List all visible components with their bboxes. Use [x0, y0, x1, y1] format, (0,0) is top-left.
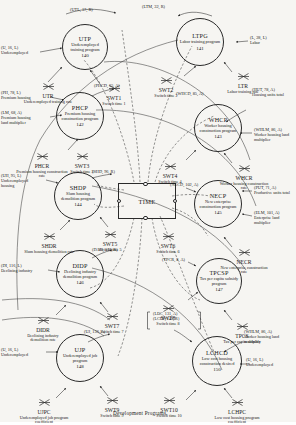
program-number: 148 — [76, 364, 84, 369]
program-node-didp[interactable]: DIDP Declining industry demolition progr… — [56, 250, 104, 298]
rate-node-lchpc[interactable]: LCHPC Low cost housing program coefficie… — [206, 392, 268, 425]
program-desc: Worker housing construction program — [197, 124, 239, 134]
program-desc: Labor training program — [180, 40, 220, 45]
valve-icon — [44, 233, 55, 240]
valve-icon — [232, 399, 243, 406]
program-number: 147 — [215, 287, 223, 292]
source-tag: (WHCD, 85, A) — [176, 91, 203, 96]
source-label-shd: (SHD, 96, R) — [92, 170, 115, 175]
rate-node-ujpc[interactable]: UJPC Underemployed job program coefficie… — [14, 392, 74, 425]
source-label-labor: (L, 28, L) Labor — [250, 36, 286, 46]
valve-icon — [107, 313, 118, 320]
rate-node-didr[interactable]: DIDR Declining industry demolition rate — [14, 310, 72, 343]
source-label-u-utp: (U, 16, L) Underemployed — [1, 46, 37, 56]
program-node-whcp[interactable]: WHCP Worker housing construction program… — [194, 104, 242, 152]
source-label-phcd: (PHCD, 65, A) — [94, 84, 120, 89]
program-node-shdp[interactable]: SHDP Slum housing demolition program 144 — [54, 172, 102, 220]
time-port-bottom — [143, 216, 148, 221]
program-code: UTP — [79, 36, 91, 42]
source-name: Worker housing land multiplier — [254, 133, 292, 142]
source-name: Enterprise land multiplier — [254, 216, 290, 225]
switch-node-swt6[interactable]: SWT6 Switch time 6 — [148, 226, 188, 254]
source-name: Premium housing land multiplier — [1, 116, 35, 125]
program-number: 146 — [76, 280, 84, 285]
program-desc: Premium housing construction program — [59, 112, 101, 122]
source-name: Worker housing land multiplier — [244, 335, 282, 344]
program-desc: Low cost housing construction desired — [195, 357, 239, 367]
program-code: PHCP — [72, 105, 88, 111]
time-port-top — [143, 182, 148, 187]
rate-desc: New enterprise construction rate — [218, 266, 270, 275]
source-label-necd: (NECD, 102, A) — [170, 183, 198, 188]
valve-icon — [107, 397, 118, 404]
source-label-utl: (UTL, 17, R) — [70, 8, 93, 13]
source-label-whlm-lchcd: (WHLM, 86, A) Worker housing land multip… — [244, 330, 282, 344]
program-desc: Underemployed training program — [65, 43, 105, 53]
program-desc: Tax per capita subsidy program — [199, 277, 239, 287]
source-name: Premium housing — [1, 96, 37, 101]
source-label-whlm: (WHLM, 86, A) Worker housing land multip… — [254, 128, 292, 142]
source-tag: (NECD, 102, A) — [170, 182, 198, 187]
program-code: UJP — [75, 347, 86, 353]
switch-node-swt4[interactable]: SWT4 Switch time 4 — [150, 156, 190, 184]
source-label-ltm: (LTM, 32, R) — [142, 5, 165, 10]
valve-icon — [164, 397, 175, 404]
rate-node-shdr[interactable]: SHDR Slum housing demolition rate — [20, 226, 78, 254]
rate-node-necr[interactable]: NECR New enterprise construction rate — [214, 242, 274, 275]
program-desc: Slum housing demolition program — [57, 192, 99, 202]
source-name: Underemployed — [246, 363, 282, 368]
source-name: Housing units total — [252, 93, 288, 98]
program-code: DIDP — [72, 263, 87, 269]
program-code: NECP — [210, 193, 227, 199]
program-desc: Declining industry demolition program — [59, 270, 101, 280]
source-label-u-lchcd: (U, 16, L) Underemployed — [246, 358, 282, 368]
valve-icon — [239, 165, 250, 172]
source-label-premium-housing: (PH, 78, L) Premium housing — [1, 91, 37, 101]
rate-desc: Underemployed job program coefficient — [18, 416, 70, 425]
program-node-ltpg[interactable]: LTPG Labor training program 141 — [176, 18, 224, 66]
source-name: Underemployed housing — [1, 179, 35, 188]
program-desc: Underemployed job program — [59, 354, 101, 364]
time-port-left — [117, 199, 122, 204]
valve-icon — [43, 83, 54, 90]
program-number: 141 — [196, 46, 204, 51]
source-label-uj: (UJ, 136, A) — [84, 330, 105, 335]
time-port-right — [173, 199, 178, 204]
source-label-whcd: (WHCD, 85, A) — [176, 92, 203, 97]
source-label-dad: (DAD, 117, R) — [92, 248, 118, 253]
program-desc: New enterprise construction program — [197, 200, 239, 210]
switch-desc: Switch time 1 — [94, 102, 134, 107]
source-label-uh: (UH, 95, L) Underemployed housing — [1, 174, 35, 188]
program-number: 150 — [213, 367, 221, 372]
program-code: SHDP — [70, 185, 87, 191]
source-name: Labor — [250, 41, 286, 46]
program-code: LCHCD — [206, 350, 228, 356]
figure-caption: Development Programs. — [113, 410, 168, 416]
valve-icon — [238, 73, 249, 80]
program-number: 143 — [214, 134, 222, 139]
source-tag: (LTM, 32, R) — [142, 4, 165, 9]
source-name: Underemployed — [1, 51, 37, 56]
source-tag: (TPCR, 8, A) — [162, 257, 185, 262]
source-tag: (SHD, 96, R) — [92, 169, 115, 174]
source-label-u-ujp: (U, 16, L) Underemployed — [1, 348, 37, 358]
valve-icon — [38, 317, 49, 324]
program-node-utp[interactable]: UTP Underemployed training program 140 — [62, 24, 108, 70]
bracket-source-lchcd: (LDC, 131, A) (LCHP, 149, R) — [150, 312, 179, 322]
source-name: Productive units total — [254, 191, 290, 196]
rate-desc: Slum housing demolition rate — [24, 250, 74, 255]
program-number: 140 — [81, 53, 89, 58]
rate-desc: Declining industry demolition rate — [18, 334, 68, 343]
bracket-line-2: (LCHP, 149, R) — [153, 317, 179, 322]
valve-icon — [165, 163, 176, 170]
valve-icon — [161, 77, 172, 84]
source-tag: (UTL, 17, R) — [70, 7, 93, 12]
program-number: 142 — [76, 122, 84, 127]
rate-desc: Low cost housing program coefficient — [210, 416, 264, 425]
valve-icon — [77, 153, 88, 160]
switch-desc: Switch time 6 — [148, 250, 188, 255]
source-label-put: (PUT, 71, A) Productive units total — [254, 186, 290, 196]
source-label-di: (DI, 116, L) Declining industry — [1, 264, 37, 274]
valve-icon — [39, 399, 50, 406]
